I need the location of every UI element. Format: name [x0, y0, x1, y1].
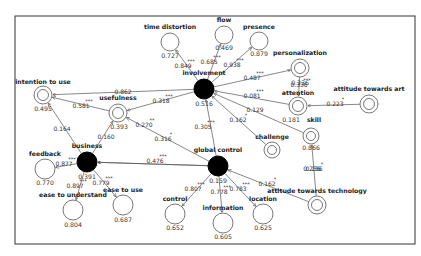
edge-coefficient: 0.164: [53, 125, 70, 132]
circle-icon: [34, 86, 52, 104]
significance-marker: ***: [207, 119, 215, 125]
significance-marker: *: [170, 131, 173, 137]
node-label: flow: [217, 16, 232, 23]
filled-circle-icon: [208, 156, 228, 176]
node-value: 0.625: [254, 224, 272, 231]
node-presence: presence0.879: [243, 23, 275, 57]
node-intention-to-use: intention to use0.495: [15, 78, 71, 112]
significance-marker: ***: [159, 153, 167, 159]
node-information: information0.605: [203, 204, 244, 240]
circle-icon: [161, 33, 179, 51]
circle-icon: [113, 195, 133, 215]
circle-icon: [253, 204, 273, 224]
node-value: 0.770: [36, 179, 54, 186]
node-ease-use: ease to use0.687: [103, 186, 143, 223]
circle-icon: [303, 128, 319, 144]
node-label: control: [163, 195, 188, 202]
significance-marker: ***: [197, 181, 205, 187]
node-value: 0.652: [166, 224, 184, 231]
node-flow: flow0.469: [215, 16, 233, 51]
circle-icon: [215, 26, 233, 44]
filled-circle-icon: [194, 79, 214, 99]
significance-marker: **: [150, 117, 156, 123]
filled-circle-icon: [77, 152, 97, 172]
node-label: global control: [194, 146, 242, 154]
node-value: 0.687: [114, 216, 132, 223]
significance-marker: *: [342, 96, 345, 102]
node-label: usefulness: [99, 94, 137, 101]
node-label: ease to understand: [39, 191, 107, 198]
significance-marker: ***: [303, 77, 311, 83]
significance-marker: ***: [79, 178, 87, 184]
node-label: attention: [282, 89, 314, 96]
circle-icon: [165, 204, 185, 224]
node-involvement: involvement0.516: [182, 69, 225, 107]
node-label: feedback: [29, 150, 62, 157]
significance-marker: ***: [256, 70, 264, 76]
node-value: 0.727: [161, 52, 179, 59]
significance-marker: ***: [256, 88, 264, 94]
significance-marker: ***: [187, 58, 195, 64]
node-feedback: feedback0.770: [29, 150, 62, 186]
significance-marker: *: [321, 161, 324, 167]
significance-marker: *: [274, 176, 277, 182]
significance-marker: ***: [68, 156, 76, 162]
node-value: 0.804: [64, 221, 82, 228]
circle-icon: [213, 213, 233, 233]
circle-icon: [109, 104, 127, 122]
circle-icon: [308, 196, 326, 214]
node-business: business0.391: [72, 142, 103, 180]
node-label: ease to use: [103, 186, 143, 193]
significance-marker: ***: [105, 175, 113, 181]
node-label: information: [203, 204, 244, 211]
circle-icon: [291, 59, 309, 77]
circle-icon: [250, 32, 268, 50]
edge-skill-to-involvement: [214, 93, 304, 132]
node-label: skill: [307, 116, 321, 123]
sem-diagram: involvement0.516global control0.159busin…: [0, 0, 421, 256]
node-value: 0.879: [250, 50, 268, 57]
node-label: location: [249, 195, 277, 202]
node-label: attitude towards art: [334, 85, 405, 92]
circle-icon: [35, 159, 55, 179]
significance-marker: ***: [85, 98, 93, 104]
node-value: 0.605: [214, 233, 232, 240]
edge-coefficient: 0.862: [114, 88, 131, 95]
significance-marker: ***: [242, 181, 250, 187]
circle-icon: [360, 95, 378, 113]
circle-icon: [264, 142, 280, 158]
node-usefulness: usefulness0.393: [99, 94, 137, 130]
node-label: time distortion: [144, 23, 196, 30]
significance-marker: ***: [165, 93, 173, 99]
edge-coefficient: 0.160: [97, 133, 114, 140]
node-label: involvement: [182, 69, 225, 76]
circle-icon: [63, 200, 83, 220]
node-value: 0.181: [282, 116, 300, 123]
node-time-distortion: time distortion0.727: [144, 23, 196, 59]
node-attitude-tech: attitude towards technology0.236: [267, 165, 367, 214]
node-label: business: [72, 142, 103, 149]
node-label: presence: [243, 23, 275, 31]
node-value: 0.495: [34, 105, 52, 112]
node-value: 0.469: [215, 44, 233, 51]
node-location: location0.625: [249, 195, 277, 231]
node-label: attitude towards technology: [267, 187, 367, 195]
node-global-control: global control0.159: [194, 146, 242, 184]
node-skill: skill0.866: [302, 116, 321, 151]
circle-icon: [289, 97, 307, 115]
node-control: control0.652: [163, 195, 188, 231]
node-label: personalization: [273, 49, 327, 57]
node-label: challenge: [255, 133, 289, 141]
significance-marker: ***: [213, 54, 221, 60]
node-ease-understand: ease to understand0.804: [39, 191, 107, 228]
significance-marker: ***: [236, 57, 244, 63]
node-challenge: challenge: [255, 133, 289, 158]
node-value: 0.393: [110, 123, 128, 130]
node-label: intention to use: [15, 78, 71, 85]
node-value: 0.159: [209, 177, 227, 184]
node-value: 0.516: [195, 100, 213, 107]
edge-coefficient: 0.129: [246, 106, 263, 113]
node-value: 0.866: [302, 144, 320, 151]
